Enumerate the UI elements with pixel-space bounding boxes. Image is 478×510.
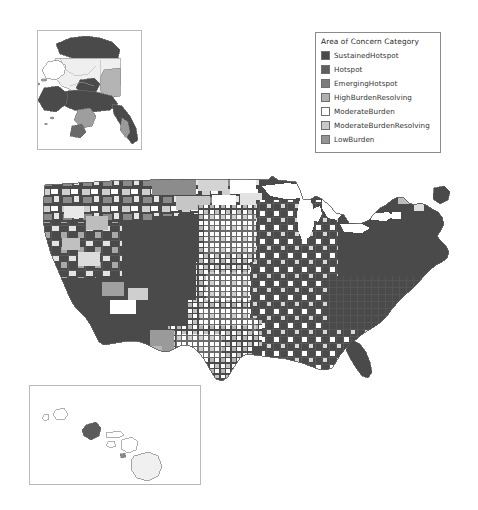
legend-item-sustainedhotspot[interactable]: SustainedHotspot: [321, 49, 436, 62]
legend-swatch-moderateburden: [321, 107, 330, 116]
legend-label-lowburden: LowBurden: [334, 135, 374, 144]
maine-region: [433, 186, 450, 204]
legend-item-lowburden[interactable]: LowBurden: [321, 133, 436, 146]
legend-label-highburdenresolving: HighBurdenResolving: [334, 93, 412, 102]
florida-region: [346, 340, 372, 378]
legend-item-emerginghotspot[interactable]: EmergingHotspot: [321, 77, 436, 90]
legend-item-moderateburden[interactable]: ModerateBurden: [321, 105, 436, 118]
legend-label-moderateburden: ModerateBurden: [334, 107, 395, 116]
legend-label-moderateburdenresolving: ModerateBurdenResolving: [334, 121, 430, 130]
legend-swatch-sustainedhotspot: [321, 51, 330, 60]
legend-swatch-hotspot: [321, 65, 330, 74]
legend-swatch-lowburden: [321, 135, 330, 144]
legend-label-emerginghotspot: EmergingHotspot: [334, 79, 397, 88]
legend-swatch-emerginghotspot: [321, 79, 330, 88]
legend-swatch-highburdenresolving: [321, 93, 330, 102]
legend-swatch-moderateburdenresolving: [321, 121, 330, 130]
legend-item-hotspot[interactable]: Hotspot: [321, 63, 436, 76]
hawaii-map-region: [42, 408, 162, 481]
map-figure: Area of Concern Category SustainedHotspo…: [0, 0, 478, 510]
legend-label-sustainedhotspot: SustainedHotspot: [334, 51, 399, 60]
map-legend: Area of Concern Category SustainedHotspo…: [315, 32, 441, 153]
conus-map-region: [40, 172, 452, 387]
legend-title: Area of Concern Category: [321, 37, 436, 47]
legend-label-hotspot: Hotspot: [334, 65, 363, 74]
legend-item-moderateburdenresolving[interactable]: ModerateBurdenResolving: [321, 119, 436, 132]
legend-item-highburdenresolving[interactable]: HighBurdenResolving: [321, 91, 436, 104]
alaska-map-region: [36, 36, 138, 144]
